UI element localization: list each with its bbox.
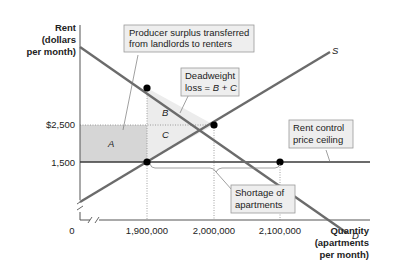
callout-shortage-line1: Shortage of	[235, 187, 284, 198]
xlabel-line2: (apartments	[315, 237, 369, 248]
point-demand-at-1900	[143, 84, 150, 91]
ylabel-line3: per month)	[26, 46, 76, 57]
shortage-bracket	[150, 164, 280, 172]
point-supply-at-ceiling	[143, 158, 150, 165]
callout-ceiling-line1: Rent control	[293, 122, 344, 133]
area-a-label: A	[107, 138, 114, 149]
callout-dwl-line2: loss = B + C	[185, 82, 237, 93]
callout-ps-line1: Producer surplus transferred	[129, 27, 249, 38]
xtick-2100000: 2,100,000	[259, 225, 301, 236]
point-equilibrium	[210, 121, 217, 128]
area-b-label: B	[162, 107, 169, 118]
x-axis-break	[88, 217, 99, 223]
xtick-2000000: 2,000,000	[193, 225, 235, 236]
leader-ps	[123, 55, 138, 130]
dwl-prefix: loss =	[185, 82, 213, 93]
callout-dwl-line1: Deadweight	[185, 70, 236, 81]
ylabel-line2: (dollars	[42, 34, 76, 45]
xlabel-line3: per month)	[319, 249, 369, 260]
leader-shortage	[216, 172, 232, 190]
callout-shortage-line2: apartments	[235, 199, 283, 210]
leader-ceiling	[326, 150, 330, 162]
xtick-1900000: 1,900,000	[126, 225, 168, 236]
dwl-plus: +	[219, 82, 230, 93]
ytick-1500: 1,500	[51, 157, 75, 168]
xlabel-line1: Quantity	[330, 225, 369, 236]
ytick-2500: $2,500	[46, 119, 75, 130]
dwl-c: C	[230, 82, 237, 93]
ylabel-line1: Rent	[55, 22, 77, 33]
callout-ps-line2: from landlords to renters	[129, 38, 232, 49]
callout-ceiling-line2: price ceiling	[293, 134, 343, 145]
chart: Producer surplus transferred from landlo…	[0, 0, 393, 274]
area-c-label: C	[162, 129, 169, 140]
supply-label: S	[332, 45, 339, 56]
xtick-0: 0	[69, 225, 74, 236]
